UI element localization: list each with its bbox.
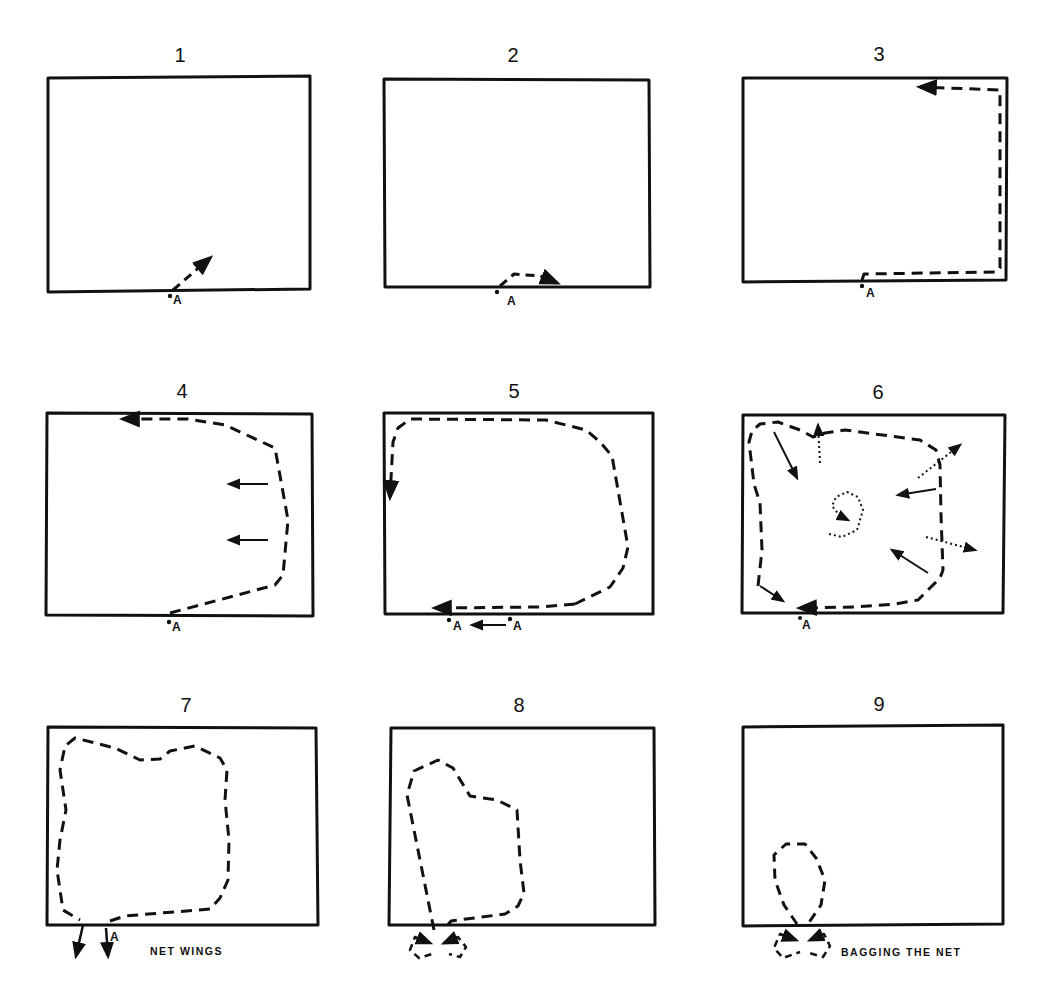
- panel-6-escape-arrow-ne: [918, 445, 960, 478]
- panel-6-escape-arrow-top: [818, 425, 820, 463]
- panel-5-net-path: [390, 419, 628, 604]
- panel-5-number: 5: [494, 380, 534, 403]
- panel-7-wing-arrow-right: [106, 928, 108, 956]
- panel-6-inward-arrow-sw: [760, 586, 783, 601]
- panel-2-number: 2: [493, 44, 533, 67]
- panel-2-point-a-dot: [495, 290, 499, 294]
- panel-8-bag-left: [410, 937, 432, 958]
- panel-7-net-path: [57, 738, 229, 921]
- panel-8: [389, 728, 655, 958]
- panel-1-net-path: [173, 258, 210, 290]
- panel-7-frame: [47, 727, 318, 925]
- figure-canvas: [0, 0, 1049, 1005]
- panel-2-net-path: [500, 274, 557, 286]
- panel-5-point-a-label-new: A: [453, 619, 462, 633]
- panel-6-point-a-label: A: [802, 618, 811, 632]
- panel-3-number: 3: [859, 43, 899, 66]
- panel-8-frame: [389, 728, 655, 925]
- panel-6-spiral: [829, 492, 863, 537]
- panel-4-net-path: [123, 419, 288, 613]
- panel-2-point-a-label: A: [507, 294, 516, 308]
- panel-3-point-a-dot: [860, 284, 864, 288]
- panel-9-net-loop: [774, 844, 825, 924]
- panel-6-inward-arrow-nw: [774, 432, 797, 478]
- panel-3: [743, 78, 1007, 282]
- panel-6-escape-arrow-se: [926, 537, 975, 550]
- panel-6: [742, 415, 1005, 613]
- panel-8-net-path: [407, 760, 524, 930]
- panel-1-frame: [48, 76, 310, 292]
- panel-4-point-a-label: A: [172, 620, 181, 634]
- panel-1-point-a-label: A: [173, 293, 182, 307]
- panel-4-frame: [46, 413, 313, 616]
- panel-9-bag-right: [806, 934, 830, 957]
- panel-1: [48, 76, 310, 292]
- point-a-markers: [167, 284, 864, 624]
- panel-9-number: 9: [859, 693, 899, 716]
- panel-5-net-bottom: [435, 604, 575, 608]
- panel-2: [384, 79, 650, 287]
- panel-7-number: 7: [166, 694, 206, 717]
- panel-1-point-a-dot: [168, 294, 172, 298]
- panel-8-number: 8: [499, 694, 539, 717]
- panel-3-net-path: [862, 87, 1000, 280]
- panel-5: [384, 413, 653, 625]
- panel-1-number: 1: [160, 44, 200, 67]
- panel-3-frame: [743, 78, 1007, 282]
- panel-6-number: 6: [858, 381, 898, 404]
- panel-6-inward-arrow-se: [892, 550, 928, 573]
- panel-4: [46, 413, 313, 616]
- panel-9-caption: BAGGING THE NET: [841, 946, 962, 958]
- panel-9: [743, 725, 1003, 958]
- panel-2-frame: [384, 79, 650, 287]
- panel-9-bag-left: [774, 934, 800, 958]
- panel-9-frame: [743, 725, 1003, 926]
- panel-5-point-a-label-old: A: [513, 619, 522, 633]
- panel-7: [47, 727, 318, 956]
- panel-6-inward-arrow-e: [898, 489, 936, 495]
- panel-4-point-a-dot: [167, 620, 171, 624]
- panel-7-wing-arrow-left: [76, 925, 83, 956]
- panel-3-point-a-label: A: [866, 286, 875, 300]
- panel-7-point-a-label: A: [110, 930, 119, 944]
- panel-5-point-a-dot-new: [447, 618, 451, 622]
- panel-7-caption: NET WINGS: [150, 945, 223, 957]
- panel-6-net-path: [749, 422, 943, 608]
- panel-5-point-a-dot-old: [508, 617, 512, 621]
- panel-4-number: 4: [162, 380, 202, 403]
- panel-8-bag-right: [444, 937, 466, 957]
